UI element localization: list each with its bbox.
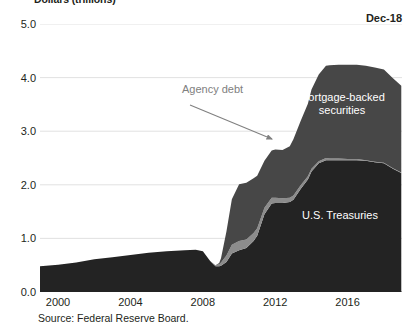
y-tick-label-5: 5.0 [21, 18, 36, 30]
y-tick-label-3: 3.0 [21, 125, 36, 137]
y-tick-label-2: 2.0 [21, 179, 36, 191]
x-tick-label-2016: 2016 [335, 296, 359, 308]
x-tick-label-2004: 2004 [118, 296, 142, 308]
y-tick-label-0: 0.0 [21, 286, 36, 298]
y-tick-label-1: 1.0 [21, 232, 36, 244]
x-tick-label-2008: 2008 [191, 296, 215, 308]
source-note: Source: Federal Reserve Board. [38, 312, 189, 324]
stacked-area-svg [40, 24, 402, 292]
agency-debt-annotation-label: Agency debt [182, 83, 243, 95]
plot-area [40, 24, 402, 292]
date-stamp: Dec-18 [366, 12, 402, 24]
chart-figure: Dollars (trillions) Dec-18 5.0 4.0 3.0 2… [0, 0, 410, 331]
y-axis-title: Dollars (trillions) [34, 0, 116, 5]
x-tick-label-2012: 2012 [263, 296, 287, 308]
x-tick-label-2000: 2000 [46, 296, 70, 308]
y-tick-label-4: 4.0 [21, 72, 36, 84]
area-u-s-treasuries [40, 160, 401, 292]
